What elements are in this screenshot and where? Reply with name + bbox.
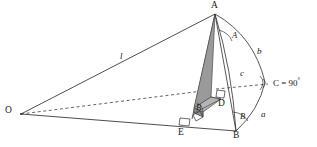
shaded-triangle-ade (194, 14, 215, 108)
side-label-c: c (240, 69, 244, 78)
edge-d-c-dashed (216, 84, 268, 89)
vertex-label-e: E (178, 128, 184, 138)
figure-canvas (0, 0, 317, 147)
angle-c-value: 90 (289, 78, 298, 88)
side-label-slant-l: l (120, 52, 123, 61)
edge-o-d-dashed (21, 90, 210, 114)
vertex-label-o: O (5, 106, 12, 116)
angle-c-prefix: C = (273, 78, 289, 88)
right-angle-marker-e (179, 118, 190, 126)
angle-label-b-inner: B (196, 103, 201, 112)
geometry-figure: A O B D E l b c a A B B C = 90° (0, 0, 317, 147)
side-label-b: b (257, 47, 262, 56)
angle-mark-c-outer (260, 76, 263, 90)
side-label-a: a (261, 110, 266, 119)
angle-label-b: B (240, 112, 245, 121)
vertex-dot-o (20, 113, 22, 115)
vertex-label-d: D (218, 99, 225, 109)
vertex-label-a: A (211, 1, 218, 11)
edge-o-b (21, 114, 236, 131)
right-angle-marker-d (216, 90, 225, 98)
angle-label-c: C = 90° (273, 77, 300, 88)
edge-o-a (21, 14, 215, 114)
degree-symbol: ° (298, 76, 301, 83)
angle-label-a: A (232, 31, 237, 40)
vertex-label-b: B (233, 131, 239, 141)
